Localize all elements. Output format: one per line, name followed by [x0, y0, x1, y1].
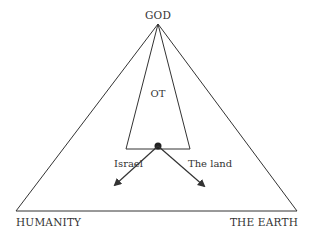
label-the-land: The land [188, 158, 233, 169]
label-god: GOD [145, 9, 171, 21]
edge-god-humanity [16, 24, 158, 211]
label-humanity: HUMANITY [16, 216, 82, 228]
edge-god-earth [158, 24, 297, 211]
triangle-diagram: GOD HUMANITY THE EARTH OT Israel The lan… [0, 0, 314, 235]
label-israel: Israel [114, 158, 143, 169]
label-ot: OT [151, 88, 166, 99]
label-the-earth: THE EARTH [230, 216, 298, 228]
ot-trapezoid [126, 24, 190, 149]
